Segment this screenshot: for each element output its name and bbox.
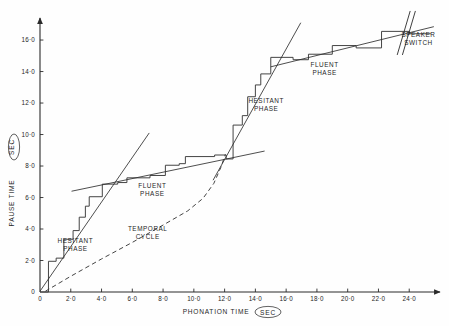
annotation-fluent-phase-2: FLUENT: [311, 61, 339, 68]
x-tick-label: 14·0: [249, 295, 263, 302]
annotation-hesitant-phase-2: HESITANT: [248, 97, 284, 104]
axes-group: [40, 18, 440, 292]
series-cumulative-staircase: [40, 31, 431, 292]
y-tick-label: 10·0: [22, 131, 36, 138]
y-tick-label: 14·0: [22, 68, 36, 75]
y-tick-label: 8·0: [25, 162, 35, 169]
y-axis-title: PAUSE TIME: [8, 180, 15, 227]
x-tick-label: 10·0: [187, 295, 201, 302]
x-tick-label: 6·0: [127, 295, 137, 302]
x-tick-label: 2·0: [66, 295, 76, 302]
x-axis-unit: SEC: [260, 309, 276, 316]
x-tick-label: 22·0: [372, 295, 386, 302]
annotation-hesitant-phase-2: PHASE: [254, 105, 278, 112]
y-tick-label: 12·0: [22, 99, 36, 106]
x-tick-label: 0: [38, 295, 42, 302]
x-tick-label: 16·0: [279, 295, 293, 302]
x-axis-title: PHONATION TIME: [183, 308, 250, 315]
annotation-fluent-phase-1: PHASE: [140, 190, 164, 197]
x-tick-label: 20·0: [341, 295, 355, 302]
annotation-temporal-cycle: CYCLE: [136, 233, 160, 240]
annotation-fluent-phase-2: PHASE: [312, 69, 336, 76]
annotation-hesitant-phase-1: PHASE: [63, 245, 87, 252]
annotation-speaker-switch: SWITCH: [404, 39, 433, 46]
x-tick-label: 12·0: [218, 295, 232, 302]
plot-area: 02·04·06·08·010·012·014·016·018·020·022·…: [0, 0, 449, 326]
y-axis-unit: SEC: [8, 139, 15, 155]
annotation-temporal-cycle: TEMPORAL: [128, 225, 168, 232]
annotation-speaker-switch: SPEAKER: [401, 31, 435, 38]
annotation-hesitant-phase-1: HESITANT: [58, 237, 94, 244]
x-tick-label: 4·0: [97, 295, 107, 302]
y-tick-label: 2·0: [25, 257, 35, 264]
figure-container: 02·04·06·08·010·012·014·016·018·020·022·…: [0, 0, 449, 326]
x-tick-label: 8·0: [158, 295, 168, 302]
x-tick-label: 24·0: [403, 295, 417, 302]
y-tick-label: 16·0: [22, 36, 36, 43]
series-temporal-cycle: [45, 154, 225, 291]
annotation-fluent-phase-1: FLUENT: [138, 182, 166, 189]
y-tick-label: 4·0: [25, 225, 35, 232]
series-fluent-trend-1: [72, 151, 265, 191]
annotation-group: HESITANTPHASEFLUENTPHASETEMPORALCYCLEHES…: [58, 31, 436, 252]
y-tick-label: 6·0: [25, 194, 35, 201]
y-tick-label: 0: [31, 288, 35, 295]
x-tick-label: 18·0: [310, 295, 324, 302]
data-series-group: [40, 23, 434, 292]
series-hesitant-trend-1: [40, 133, 149, 291]
